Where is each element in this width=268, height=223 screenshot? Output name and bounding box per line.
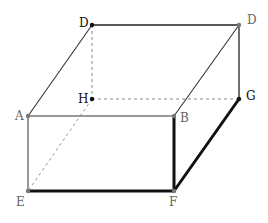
vertex-b [172, 114, 176, 118]
cuboid-diagram: DDHGABEF [0, 0, 268, 223]
vertex-h [90, 97, 94, 101]
label-h: H [78, 92, 88, 106]
vertex-f [172, 189, 176, 193]
label-d_right: D [247, 13, 257, 27]
vertex-d_left [90, 23, 94, 27]
vertex-g [237, 97, 241, 101]
vertex-e [26, 189, 30, 193]
edge-d_right-b [174, 25, 239, 116]
label-b: B [180, 111, 189, 125]
vertices [26, 23, 241, 193]
vertex-d_right [237, 23, 241, 27]
edge-h-e [28, 99, 92, 191]
label-e: E [16, 195, 25, 209]
label-a: A [14, 109, 24, 123]
label-d_left: D [79, 16, 89, 30]
vertex-labels: DDHGABEF [14, 13, 257, 209]
hidden-edges [28, 25, 239, 191]
label-f: F [169, 195, 177, 209]
visible-edges [28, 25, 239, 191]
label-g: G [246, 89, 256, 103]
vertex-a [26, 114, 30, 118]
